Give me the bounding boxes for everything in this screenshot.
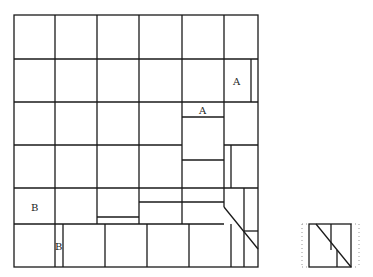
label-b-left: B xyxy=(31,202,38,213)
label-a-mid: A xyxy=(198,105,207,116)
diagonal-cut xyxy=(224,207,258,249)
tiling-diagram: A A B B xyxy=(0,0,373,277)
inset-square xyxy=(309,224,351,267)
inset-piece xyxy=(302,224,359,267)
inset-diagonal xyxy=(316,224,351,267)
label-b-bottom: B xyxy=(55,241,62,252)
outer-border xyxy=(14,15,258,267)
label-a-top: A xyxy=(232,76,241,87)
main-grid xyxy=(14,15,258,267)
